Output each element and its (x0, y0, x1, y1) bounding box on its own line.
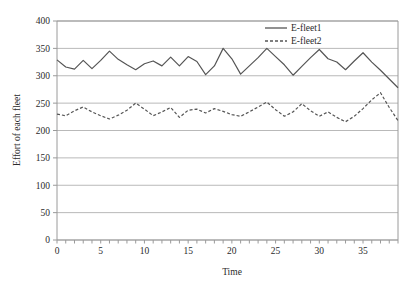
y-tick-label: 0 (45, 235, 50, 245)
x-tick-label: 20 (227, 246, 237, 256)
x-tick-label: 0 (55, 246, 60, 256)
chart-canvas: 050100150200250300350400 05101520253035 … (0, 0, 415, 283)
y-tick-label: 350 (36, 44, 51, 54)
y-tick-label: 200 (36, 126, 51, 136)
y-tick-label: 400 (36, 16, 51, 26)
chart-figure: 050100150200250300350400 05101520253035 … (0, 0, 415, 283)
x-tick-label: 5 (98, 246, 103, 256)
y-tick-label: 50 (41, 208, 51, 218)
x-tick-label: 30 (315, 246, 325, 256)
x-tick-label: 15 (183, 246, 193, 256)
x-tick-label: 35 (358, 246, 368, 256)
x-tick-label: 25 (271, 246, 281, 256)
y-tick-label: 300 (36, 71, 51, 81)
legend-label-1: E-fleet1 (291, 23, 322, 33)
legend-label-2: E-fleet2 (291, 36, 322, 46)
x-tick-label: 10 (140, 246, 150, 256)
x-axis-title: Time (222, 267, 242, 277)
y-tick-label: 100 (36, 181, 51, 191)
y-tick-label: 250 (36, 99, 51, 109)
y-tick-label: 150 (36, 153, 51, 163)
y-axis-title: Effort of each fleet (12, 94, 22, 166)
chart-background (0, 0, 415, 283)
